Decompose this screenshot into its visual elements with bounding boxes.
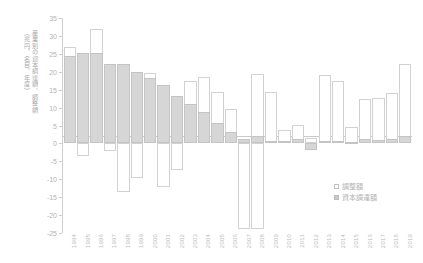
y-tick-label: -10 (47, 176, 57, 183)
bar-capital-raised (144, 78, 156, 143)
bar-adjustment (345, 127, 357, 143)
x-tick-label: 2005 (219, 234, 225, 248)
x-tick-label: 1995 (85, 234, 91, 248)
x-tick-label: 1999 (138, 234, 144, 248)
chart-legend: 調整額 資本調達額 (334, 181, 377, 203)
bar-group (385, 18, 398, 233)
bar-group (238, 18, 251, 233)
bar-group (291, 18, 304, 233)
bar-group (157, 18, 170, 233)
bar-adjustment (332, 81, 344, 144)
y-axis-title: 産業別の資本調達額、調整額 （兆円、名目、年度） (14, 30, 48, 190)
y-tick-label: -5 (51, 158, 57, 165)
bar-capital-raised (305, 143, 317, 150)
legend-item-capital: 資本調達額 (334, 192, 377, 203)
x-tick-label: 2003 (192, 234, 198, 248)
bar-capital-raised (131, 72, 143, 144)
chart-container: 産業別の資本調達額、調整額 （兆円、名目、年度） 35302520151050-… (0, 0, 423, 263)
legend-label-adjustment: 調整額 (342, 181, 363, 192)
bar-capital-raised (319, 141, 331, 143)
y-tick-mark (59, 18, 62, 19)
bar-capital-raised (225, 132, 237, 144)
bar-adjustment (319, 75, 331, 144)
bar-capital-raised (171, 96, 183, 143)
bar-capital-raised (90, 53, 102, 143)
x-tick-label: 2016 (367, 234, 373, 248)
bar-capital-raised (104, 64, 116, 144)
y-tick-mark (59, 90, 62, 91)
bar-capital-raised (117, 64, 129, 144)
x-tick-label: 2008 (259, 234, 265, 248)
bar-adjustment (359, 99, 371, 144)
x-tick-label: 2002 (179, 234, 185, 248)
y-tick-mark (59, 179, 62, 180)
bar-capital-raised (399, 136, 411, 144)
bar-group (264, 18, 277, 233)
bar-adjustment-negative (104, 143, 116, 151)
bar-group (130, 18, 143, 233)
bar-capital-raised (251, 136, 263, 144)
bar-capital-raised (211, 123, 223, 143)
bar-group (251, 18, 264, 233)
bar-capital-raised (184, 104, 196, 143)
x-tick-label: 2017 (380, 234, 386, 248)
bar-group (399, 18, 412, 233)
bar-capital-raised (278, 141, 290, 143)
bar-group (117, 18, 130, 233)
bar-group (144, 18, 157, 233)
y-tick-label: 20 (49, 68, 57, 75)
bar-group (184, 18, 197, 233)
bar-capital-raised (64, 56, 76, 143)
bar-capital-raised (359, 139, 371, 143)
bar-capital-raised (238, 139, 250, 143)
x-tick-label: 2012 (313, 234, 319, 248)
bar-capital-raised (332, 141, 344, 144)
y-axis-title-line-2: （兆円、名目、年度） (24, 30, 31, 94)
legend-item-adjustment: 調整額 (334, 181, 377, 192)
bar-adjustment (399, 64, 411, 144)
bar-adjustment (251, 74, 263, 144)
y-tick-label: 10 (49, 104, 57, 111)
legend-label-capital: 資本調達額 (342, 192, 377, 203)
bar-adjustment (372, 98, 384, 144)
bar-capital-raised (157, 85, 169, 143)
y-tick-mark (59, 54, 62, 55)
bar-group (90, 18, 103, 233)
bar-capital-raised (198, 112, 210, 144)
x-tick-label: 2001 (165, 234, 171, 248)
bar-capital-raised (265, 141, 277, 144)
x-tick-label: 1996 (98, 234, 104, 248)
x-tick-label: 2010 (286, 234, 292, 248)
x-tick-label: 2011 (299, 234, 305, 248)
bar-group (278, 18, 291, 233)
y-tick-mark (59, 215, 62, 216)
x-tick-label: 2007 (246, 234, 252, 248)
y-tick-label: 5 (53, 122, 57, 129)
x-tick-label: 2004 (205, 234, 211, 248)
bar-capital-raised (386, 139, 398, 143)
bar-adjustment-negative (117, 143, 129, 192)
y-tick-mark (59, 143, 62, 144)
x-tick-label: 2009 (273, 234, 279, 248)
x-tick-label: 2006 (232, 234, 238, 248)
x-tick-label: 2015 (353, 234, 359, 248)
y-tick-label: 15 (49, 86, 57, 93)
bar-adjustment-negative (157, 143, 169, 187)
x-tick-label: 2000 (152, 234, 158, 248)
y-tick-mark (59, 108, 62, 109)
y-tick-mark (59, 36, 62, 37)
bar-adjustment-negative (171, 143, 183, 169)
bar-group (63, 18, 76, 233)
bar-group (170, 18, 183, 233)
x-tick-label: 2018 (393, 234, 399, 248)
bar-adjustment-negative (77, 143, 89, 155)
y-tick-label: -25 (47, 230, 57, 237)
y-tick-label: -15 (47, 194, 57, 201)
x-tick-label: 1994 (71, 234, 77, 248)
x-tick-label: 1997 (111, 234, 117, 248)
legend-swatch-open-icon (334, 184, 339, 189)
x-axis-tick-labels: 1994199519961997199819992000200120022003… (62, 234, 412, 262)
bar-adjustment-negative (238, 143, 250, 229)
bar-adjustment (265, 92, 277, 143)
bar-capital-raised (292, 139, 304, 144)
